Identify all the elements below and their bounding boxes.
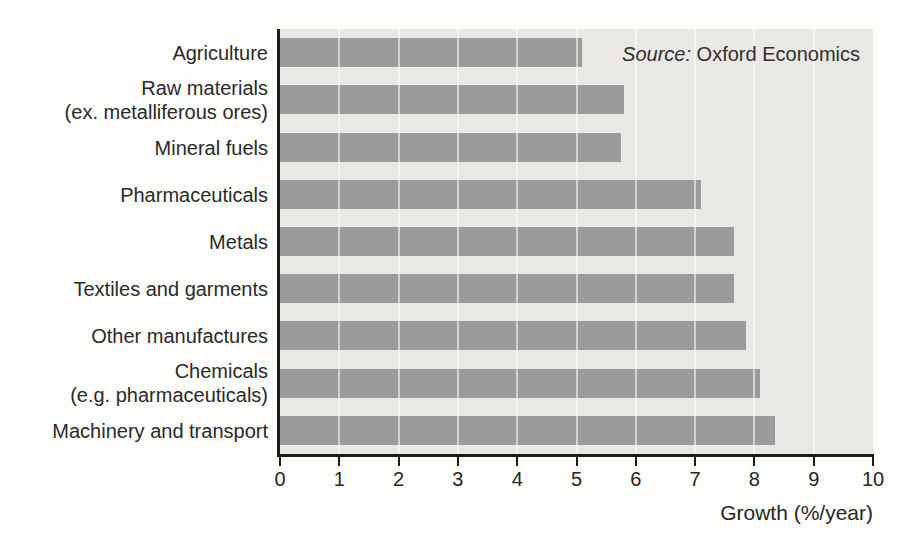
tick-mark-5 (576, 457, 578, 466)
category-label: Machinery and transport (52, 419, 268, 443)
tick-mark-7 (694, 457, 696, 466)
bar-row (280, 218, 873, 265)
category-row: Metals (0, 218, 268, 265)
bar-row (280, 312, 873, 359)
x-axis-tick-labels: 012345678910 (280, 468, 873, 494)
category-label: Metals (209, 230, 268, 254)
bar-9 (280, 416, 775, 445)
tick-label-7: 7 (690, 468, 701, 491)
tick-mark-8 (753, 457, 755, 466)
tick-mark-6 (635, 457, 637, 466)
bar-1 (280, 38, 582, 67)
bar-2 (280, 85, 624, 114)
x-axis-ticks (280, 457, 873, 466)
bar-row (280, 123, 873, 170)
tick-label-0: 0 (274, 468, 285, 491)
source-name-label: Oxford Economics (691, 43, 860, 65)
bar-row (280, 265, 873, 312)
bar-8 (280, 369, 760, 398)
bar-row (280, 407, 873, 454)
category-row: Other manufactures (0, 312, 268, 359)
category-row: Raw materials (ex. metalliferous ores) (0, 76, 268, 124)
category-label: Raw materials (ex. metalliferous ores) (65, 76, 268, 124)
tick-mark-1 (338, 457, 340, 466)
plot-area (280, 29, 873, 454)
tick-label-10: 10 (862, 468, 884, 491)
tick-label-9: 9 (808, 468, 819, 491)
category-row: Chemicals (e.g. pharmaceuticals) (0, 359, 268, 407)
category-axis-labels: AgricultureRaw materials (ex. metallifer… (0, 29, 268, 454)
tick-label-6: 6 (630, 468, 641, 491)
tick-label-4: 4 (512, 468, 523, 491)
bar-6 (280, 274, 734, 303)
bar-3 (280, 133, 621, 162)
tick-label-1: 1 (334, 468, 345, 491)
category-label: Agriculture (172, 41, 268, 65)
bar-5 (280, 227, 734, 256)
tick-mark-10 (872, 457, 874, 466)
category-row: Mineral fuels (0, 124, 268, 171)
bar-row (280, 171, 873, 218)
category-label: Pharmaceuticals (120, 183, 268, 207)
category-row: Pharmaceuticals (0, 171, 268, 218)
bar-chart-figure: AgricultureRaw materials (ex. metallifer… (0, 0, 920, 548)
tick-label-8: 8 (749, 468, 760, 491)
category-row: Textiles and garments (0, 265, 268, 312)
category-label: Mineral fuels (155, 136, 268, 160)
category-label: Other manufactures (91, 324, 268, 348)
category-label: Chemicals (e.g. pharmaceuticals) (70, 359, 268, 407)
bar-row (280, 76, 873, 123)
bar-7 (280, 321, 746, 350)
category-row: Machinery and transport (0, 407, 268, 454)
x-axis-title: Growth (%/year) (720, 501, 873, 525)
tick-label-3: 3 (452, 468, 463, 491)
tick-mark-4 (516, 457, 518, 466)
tick-label-5: 5 (571, 468, 582, 491)
bar-series (280, 29, 873, 454)
tick-label-2: 2 (393, 468, 404, 491)
tick-mark-3 (457, 457, 459, 466)
bar-4 (280, 180, 701, 209)
tick-mark-2 (398, 457, 400, 466)
category-row: Agriculture (0, 29, 268, 76)
tick-mark-0 (279, 457, 281, 466)
category-label: Textiles and garments (73, 277, 268, 301)
tick-mark-9 (813, 457, 815, 466)
source-note: Source: Oxford Economics (622, 43, 860, 66)
bar-row (280, 360, 873, 407)
source-prefix-label: Source: (622, 43, 691, 65)
